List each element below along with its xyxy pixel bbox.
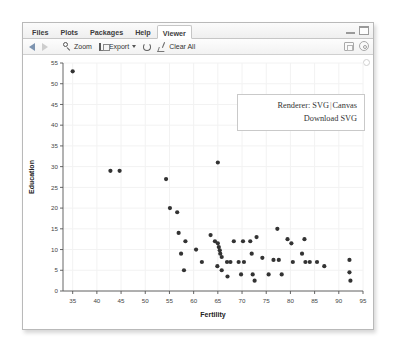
refresh-button[interactable]: [141, 43, 153, 51]
svg-text:85: 85: [311, 297, 318, 304]
tab-help[interactable]: Help: [129, 24, 157, 38]
export-button-label: Export: [109, 43, 129, 50]
svg-text:40: 40: [93, 297, 100, 304]
svg-text:10: 10: [51, 246, 58, 253]
download-svg-line: Download SVG: [245, 112, 357, 125]
svg-text:25: 25: [51, 184, 58, 191]
svg-text:50: 50: [142, 297, 149, 304]
back-arrow-icon: [29, 43, 35, 51]
broom-icon: [158, 42, 167, 51]
clear-all-button[interactable]: Clear All: [156, 42, 197, 51]
download-svg-link[interactable]: Download SVG: [304, 114, 357, 123]
svg-text:40: 40: [51, 121, 58, 128]
viewer-toolbar: Zoom Export Clear All: [23, 39, 373, 55]
svg-text:55: 55: [166, 297, 173, 304]
svg-text:50: 50: [51, 80, 58, 87]
svg-text:70: 70: [239, 297, 246, 304]
svg-text:60: 60: [190, 297, 197, 304]
tab-files[interactable]: Files: [26, 24, 54, 38]
svg-text:5: 5: [55, 266, 59, 273]
export-icon: [99, 43, 107, 51]
svg-text:15: 15: [51, 225, 58, 232]
svg-text:45: 45: [118, 297, 125, 304]
screenshot-root: Files Plots Packages Help Viewer: [0, 0, 396, 354]
window-controls: [346, 26, 369, 35]
svg-text:95: 95: [360, 297, 367, 304]
renderer-svg-option[interactable]: SVG: [312, 101, 329, 110]
chevron-down-icon: [132, 45, 136, 48]
publish-icon[interactable]: [344, 42, 354, 51]
tab-viewer[interactable]: Viewer: [157, 25, 192, 39]
tab-plots[interactable]: Plots: [54, 24, 84, 38]
zoom-button-label: Zoom: [74, 43, 92, 50]
renderer-overlay-box: Renderer: SVG|Canvas Download SVG: [237, 94, 365, 131]
maximize-icon[interactable]: [359, 26, 369, 35]
viewer-pane-window: Files Plots Packages Help Viewer: [22, 22, 374, 330]
magnifier-icon: [63, 42, 72, 51]
svg-text:Fertility: Fertility: [200, 311, 225, 319]
svg-text:0: 0: [55, 287, 59, 294]
minimize-icon[interactable]: [346, 27, 355, 34]
zoom-button[interactable]: Zoom: [61, 42, 94, 51]
svg-text:90: 90: [335, 297, 342, 304]
svg-text:45: 45: [51, 101, 58, 108]
tab-packages[interactable]: Packages: [84, 24, 129, 38]
svg-text:75: 75: [263, 297, 270, 304]
renderer-label: Renderer:: [277, 101, 310, 110]
svg-text:Education: Education: [28, 160, 35, 194]
svg-text:80: 80: [287, 297, 294, 304]
renderer-canvas-option[interactable]: Canvas: [333, 101, 357, 110]
pane-tab-bar: Files Plots Packages Help Viewer: [23, 23, 373, 39]
forward-arrow-icon: [42, 43, 48, 51]
forward-button[interactable]: [40, 43, 50, 51]
gear-icon[interactable]: [359, 41, 369, 51]
refresh-icon: [143, 43, 151, 51]
back-button[interactable]: [27, 43, 37, 51]
svg-text:35: 35: [51, 142, 58, 149]
svg-text:30: 30: [51, 163, 58, 170]
svg-text:35: 35: [69, 297, 76, 304]
export-button[interactable]: Export: [97, 43, 138, 51]
viewer-content: 3540455055606570758085909505101520253035…: [23, 55, 373, 329]
svg-text:20: 20: [51, 204, 58, 211]
svg-text:65: 65: [214, 297, 221, 304]
toolbar-right-group: [344, 41, 369, 51]
svg-text:55: 55: [51, 59, 58, 66]
clear-all-label: Clear All: [169, 43, 195, 50]
renderer-options-line: Renderer: SVG|Canvas: [245, 99, 357, 112]
